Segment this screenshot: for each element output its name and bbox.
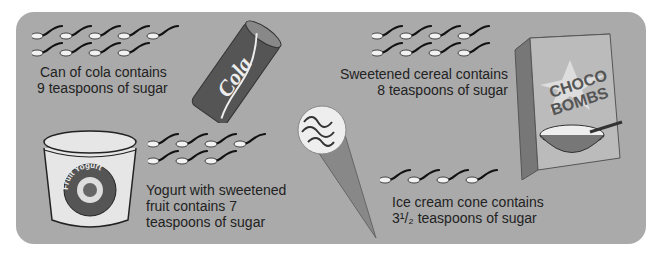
caption-line: Ice cream cone contains [392,194,544,210]
caption-line: Sweetened cereal contains [328,66,508,82]
cereal-caption: Sweetened cereal contains 8 teaspoons of… [328,66,508,98]
caption-line: 9 teaspoons of sugar [37,80,168,96]
ice-cream-teaspoons-icon [380,166,520,188]
yogurt-teaspoons-icon [148,130,288,170]
ice-cream-caption: Ice cream cone contains 3¹/₂ teaspoons o… [392,194,544,226]
caption-line: 3¹/₂ teaspoons of sugar [392,210,544,226]
caption-line: Yogurt with sweetened [146,182,286,198]
yogurt-tub-icon: Fruit Yogurt [40,128,140,233]
caption-line: teaspoons of sugar [146,214,286,230]
cola-teaspoons-icon [32,22,202,62]
cereal-teaspoons-icon [372,22,512,62]
cereal-box-icon: CHOCO BOMBS [510,30,635,180]
yogurt-caption: Yogurt with sweetened fruit contains 7 t… [146,182,286,230]
caption-line: fruit contains 7 [146,198,286,214]
ice-cream-cone-icon [290,100,390,245]
cola-caption: Can of cola contains 9 teaspoons of suga… [40,64,168,96]
caption-line: 8 teaspoons of sugar [328,82,508,98]
caption-line: Can of cola contains [40,64,168,80]
cola-can-icon: Cola [180,18,290,123]
